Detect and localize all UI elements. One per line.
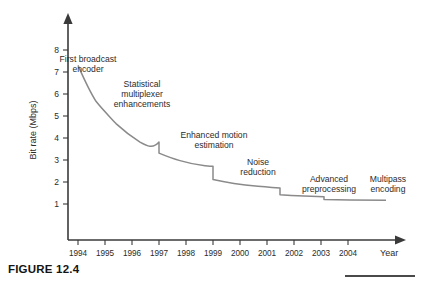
y-tick-label-5: 5 — [54, 111, 59, 121]
annotation-line: estimation — [194, 140, 233, 150]
x-tick-label-1998: 1998 — [177, 249, 196, 258]
bitrate-line-chart: 8 7 6 5 4 3 2 1 Bit rate (Mbps) — [0, 0, 422, 258]
annotation-line: preprocessing — [302, 184, 356, 194]
figure-caption-label: FIGURE 12.4 — [8, 263, 79, 275]
x-tick-label-2001: 2001 — [258, 249, 277, 258]
annotation-enhanced-motion-estimation: Enhanced motion estimation — [181, 130, 248, 150]
y-axis-title-group: Bit rate (Mbps) — [28, 100, 38, 159]
annotation-statistical-multiplexer-enhancements: Statistical multiplexer enhancements — [114, 79, 170, 109]
annotation-multipass-encoding: Multipass encoding — [370, 174, 406, 194]
annotation-line: enhancements — [114, 99, 170, 109]
y-tick-label-6: 6 — [54, 89, 59, 99]
annotation-line: encoding — [371, 184, 406, 194]
x-tick-label-1996: 1996 — [123, 249, 142, 258]
y-tick-label-7: 7 — [54, 67, 59, 77]
annotation-line: Statistical — [124, 79, 161, 89]
x-tick-label-1997: 1997 — [150, 249, 169, 258]
x-tick-label-2000: 2000 — [231, 249, 250, 258]
annotation-line: Multipass — [370, 174, 406, 184]
annotation-noise-reduction: Noise reduction — [240, 157, 276, 177]
x-axis — [68, 235, 406, 244]
y-tick-label-2: 2 — [54, 177, 59, 187]
figure-caption-bar: FIGURE 12.4 — [0, 258, 422, 289]
y-axis-title: Bit rate (Mbps) — [28, 100, 38, 159]
annotation-advanced-preprocessing: Advanced preprocessing — [302, 174, 356, 194]
caption-divider-rule — [345, 275, 415, 277]
y-axis — [63, 13, 72, 240]
y-tick-label-4: 4 — [54, 133, 59, 143]
x-tick-label-1994: 1994 — [69, 249, 88, 258]
x-axis-tick-labels: 1994 1995 1996 1997 1998 1999 2000 2001 … — [69, 249, 358, 258]
annotation-line: reduction — [240, 167, 276, 177]
x-tick-label-2004: 2004 — [339, 249, 358, 258]
y-axis-tick-labels: 8 7 6 5 4 3 2 1 — [54, 45, 59, 209]
y-tick-label-1: 1 — [54, 199, 59, 209]
x-tick-label-2003: 2003 — [312, 249, 331, 258]
figure-container: 8 7 6 5 4 3 2 1 Bit rate (Mbps) — [0, 0, 422, 289]
annotation-line: multiplexer — [121, 89, 163, 99]
x-tick-label-1999: 1999 — [204, 249, 223, 258]
x-axis-title: Year — [380, 248, 398, 258]
annotation-line: Advanced — [310, 174, 348, 184]
annotation-line: Enhanced motion — [181, 130, 248, 140]
x-tick-label-2002: 2002 — [285, 249, 304, 258]
y-tick-label-3: 3 — [54, 155, 59, 165]
y-tick-label-8: 8 — [54, 45, 59, 55]
annotation-line: Noise — [247, 157, 269, 167]
chart-area: 8 7 6 5 4 3 2 1 Bit rate (Mbps) — [0, 0, 422, 258]
annotation-line: First broadcast — [60, 54, 117, 64]
x-tick-label-1995: 1995 — [96, 249, 115, 258]
annotation-line: encoder — [72, 64, 103, 74]
